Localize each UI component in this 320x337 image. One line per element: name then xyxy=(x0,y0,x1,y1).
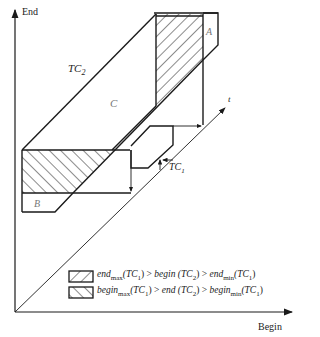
hatched-region-end-overlap xyxy=(156,14,203,106)
tc1-shape xyxy=(131,126,173,168)
t-axis-label: t xyxy=(228,94,231,104)
tc2-label: TC2 xyxy=(68,62,85,77)
y-axis-label: End xyxy=(22,6,38,17)
legend-swatch-slash xyxy=(69,287,93,298)
legend-row-end-overlap: endmax(TC1) > begin (TC2) > endmin(TC1) xyxy=(97,269,256,282)
legend-swatch-backslash xyxy=(69,271,93,282)
region-c-label: C xyxy=(110,97,117,109)
legend-row-begin-overlap: beginmax(TC1) > end (TC2) > beginmin(TC1… xyxy=(97,285,263,298)
x-axis-label: Begin xyxy=(258,321,282,332)
tc1-label: TC1 xyxy=(169,161,185,175)
region-b-label: B xyxy=(34,198,40,209)
region-a-label: A xyxy=(206,26,212,37)
hatched-region-begin-overlap xyxy=(22,150,115,193)
